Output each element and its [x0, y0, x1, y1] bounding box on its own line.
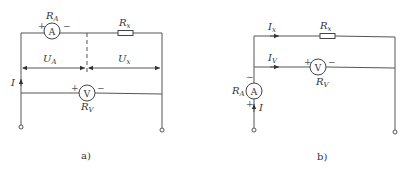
voltmeter-plus-sign: +	[304, 57, 312, 67]
current-label: I	[258, 102, 264, 113]
current-v-label: IV	[267, 52, 278, 65]
voltmeter-wire	[95, 93, 162, 94]
ammeter-icon: A	[44, 23, 60, 39]
figure-a-circuit: A + − RA Rx UA Ux I V + − RV a)	[10, 10, 164, 161]
ammeter-minus-sign: −	[246, 72, 254, 82]
figure-b-circuit: Ix Rx IV V + − RV A − + RA I b)	[231, 20, 397, 162]
figure-a-caption: a)	[81, 150, 91, 161]
ammeter-plus-sign: +	[38, 21, 46, 31]
svg-text:V: V	[83, 89, 91, 99]
voltmeter-icon: V	[310, 59, 326, 75]
svg-text:V: V	[314, 63, 322, 73]
resistor-icon	[118, 31, 133, 36]
voltage-x-label: Ux	[118, 53, 130, 66]
ammeter-minus-sign: −	[63, 21, 71, 31]
ammeter-resistance-label: RA	[45, 10, 59, 23]
terminal-right	[160, 128, 164, 132]
terminal-left	[19, 125, 23, 129]
terminal-right	[393, 130, 397, 134]
ammeter-resistance-label: RA	[231, 85, 245, 98]
voltmeter-resistance-label: RV	[315, 76, 330, 89]
voltmeter-minus-sign: −	[328, 57, 336, 67]
resistor-label: Rx	[319, 20, 332, 33]
voltmeter-minus-sign: −	[97, 83, 105, 93]
top-wire	[335, 36, 395, 37]
ammeter-plus-sign: +	[246, 99, 254, 109]
resistor-label: Rx	[118, 17, 131, 30]
voltage-a-label: UA	[43, 53, 57, 66]
terminal-left	[252, 128, 256, 132]
resistor-icon	[320, 34, 335, 39]
svg-text:A: A	[48, 27, 56, 37]
voltmeter-plus-sign: +	[71, 83, 79, 93]
circuit-diagram: A + − RA Rx UA Ux I V + − RV a)	[0, 0, 407, 173]
voltmeter-wire	[326, 67, 395, 68]
ammeter-icon: A	[246, 83, 262, 99]
figure-b-caption: b)	[317, 151, 327, 162]
current-x-label: Ix	[267, 21, 276, 34]
current-label: I	[10, 77, 16, 88]
voltmeter-resistance-label: RV	[80, 101, 95, 114]
voltmeter-icon: V	[79, 85, 95, 101]
svg-text:A: A	[250, 87, 258, 97]
